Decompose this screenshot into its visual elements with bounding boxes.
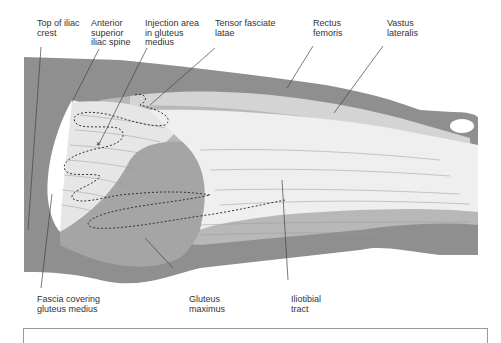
label-gluteus-maximus: Gluteus maximus [189,295,225,314]
caption-box-border [23,328,488,343]
label-injection-area: Injection area in gluteus medius [145,19,199,48]
label-iliotibial-tract: Iliotibial tract [291,295,321,314]
label-rectus-femoris: Rectus femoris [313,19,343,38]
label-anterior-superior-iliac-spine: Anterior superior iliac spine [91,19,131,48]
label-vastus-lateralis: Vastus lateralis [387,19,418,38]
patella-notch [450,119,474,133]
label-fascia-covering-gluteus-medius: Fascia covering gluteus medius [37,295,100,314]
injection-point-marker: × [96,139,101,148]
label-tensor-fasciae-latae: Tensor fasciate latae [215,19,276,38]
label-top-of-iliac-crest: Top of iliac crest [37,19,80,38]
